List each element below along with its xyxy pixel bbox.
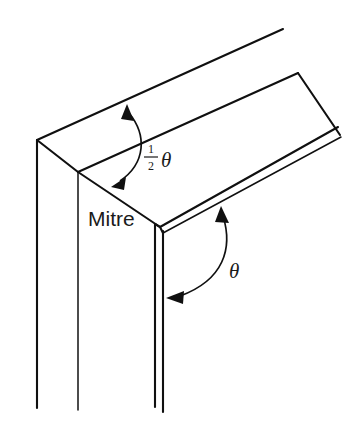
half-angle-denominator: 2 bbox=[148, 159, 154, 173]
left-arm-front-face bbox=[37, 140, 78, 410]
mitre-label: Mitre bbox=[88, 207, 135, 230]
half-angle-theta-symbol: θ bbox=[161, 148, 171, 172]
full-angle-arrow-upper bbox=[215, 206, 229, 223]
mitre-joint-illustration: 1 2 θ θ Mitre bbox=[0, 0, 358, 422]
right-arm-front-face bbox=[155, 224, 163, 412]
mitre-joint-diagram: 1 2 θ θ Mitre bbox=[0, 0, 358, 422]
full-angle-arrow-lower bbox=[166, 291, 184, 304]
half-angle-numerator: 1 bbox=[148, 142, 154, 156]
solid-faces bbox=[37, 29, 340, 412]
full-angle-annotation bbox=[166, 206, 229, 304]
full-angle-arc bbox=[180, 216, 227, 296]
full-angle-theta-symbol: θ bbox=[229, 259, 239, 283]
